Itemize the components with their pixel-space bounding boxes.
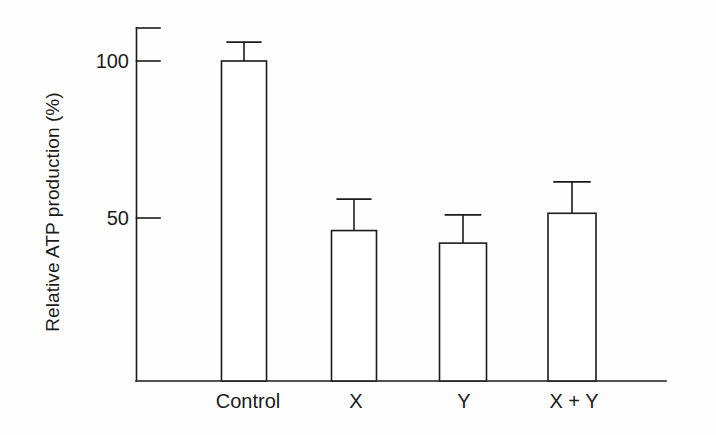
x-tick-label-x-plus-y: X + Y (549, 390, 598, 413)
bar-series (222, 61, 597, 381)
bar-x-y (548, 213, 596, 381)
x-tick-label-control: Control (216, 390, 280, 413)
error-bar-series (226, 42, 590, 243)
x-tick-label-y: Y (457, 390, 470, 413)
bar-y (440, 243, 487, 381)
bar-chart-figure: Relative ATP production (%) 100 50 Contr… (0, 0, 716, 435)
x-tick-label-x: X (349, 390, 362, 413)
bar-control (222, 61, 267, 381)
plot-area (0, 0, 716, 435)
bar-x (332, 231, 377, 381)
